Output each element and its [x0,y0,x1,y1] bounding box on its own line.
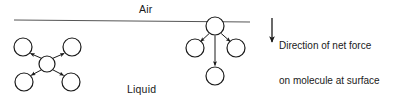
molecule-bulk-bottom-right [62,73,80,91]
molecule-surface-center [206,17,224,35]
annotation-line-1: Direction of net force [279,40,380,52]
molecule-bulk-top-right [63,38,81,56]
liquid-label: Liquid [127,84,156,95]
surface-tension-diagram: Air Liquid Direction of net force on mol… [0,0,403,104]
molecule-bulk-top-left [14,38,32,56]
molecule-surface-lower-left [186,39,204,57]
force-arrow-surface-left [201,34,210,42]
molecule-surface-lower-right [227,39,245,57]
force-arrow-down-left [31,70,41,76]
force-arrow-surface-right [221,34,230,42]
net-force-annotation: Direction of net force on molecule at su… [279,17,380,104]
force-arrow-up-left [31,54,42,59]
bulk-molecule-group [14,38,81,91]
force-arrow-up-right [53,53,64,58]
surface-molecule-group [186,17,245,85]
force-arrow-down-right [53,70,64,76]
air-label: Air [139,4,152,15]
molecule-bulk-bottom-left [15,73,33,91]
molecule-surface-below [206,67,224,85]
annotation-line-2: on molecule at surface [279,75,380,87]
